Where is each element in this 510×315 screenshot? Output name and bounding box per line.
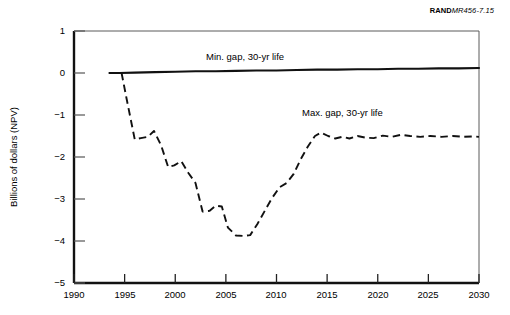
series-annotation-min-gap: Min. gap, 30-yr life xyxy=(206,52,284,62)
x-tick-label: 2005 xyxy=(215,290,236,300)
y-tick-label-group: 1 0 −1 −2 −3 −4 −5 xyxy=(40,0,65,315)
x-tick-label: 1995 xyxy=(114,290,135,300)
x-tick-label: 2025 xyxy=(417,290,438,300)
series-annotation-max-gap: Max. gap, 30-yr life xyxy=(302,108,383,118)
x-tick-label: 1990 xyxy=(63,290,84,300)
y-tick-label: −2 xyxy=(54,152,65,162)
x-tick-label: 2010 xyxy=(265,290,286,300)
y-tick-label: −4 xyxy=(54,236,65,246)
rand-brand-label: RAND xyxy=(430,6,452,15)
y-axis-label: Billions of dollars (NPV) xyxy=(9,107,19,207)
x-tick-label: 2030 xyxy=(468,290,489,300)
y-tick-label: 1 xyxy=(60,26,65,36)
series-line-max-gap xyxy=(109,73,479,236)
series-line-min-gap xyxy=(109,68,479,73)
y-tick-marks xyxy=(74,31,85,283)
y-tick-label: −3 xyxy=(54,194,65,204)
rand-code-label: MR456-7.15 xyxy=(452,6,494,15)
y-tick-label: −5 xyxy=(54,278,65,288)
x-tick-label: 2015 xyxy=(316,290,337,300)
y-tick-label: 0 xyxy=(60,68,65,78)
y-tick-label: −1 xyxy=(54,110,65,120)
plot-area xyxy=(0,0,510,315)
x-tick-marks xyxy=(74,274,479,283)
rand-source-tag: RANDMR456-7.15 xyxy=(430,7,494,15)
x-tick-label: 2020 xyxy=(367,290,388,300)
chart-figure: RANDMR456-7.15 Billions of dollars (NPV)… xyxy=(0,0,510,315)
x-tick-label: 2000 xyxy=(164,290,185,300)
